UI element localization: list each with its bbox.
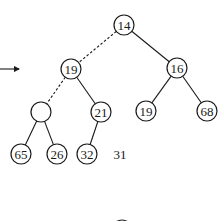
tree-node: 68 bbox=[197, 101, 217, 121]
heap-diagram: 141916211968652632 31 bbox=[0, 0, 222, 221]
tree-edge bbox=[77, 77, 96, 104]
tree-edge bbox=[45, 121, 54, 144]
node-value-label: 32 bbox=[81, 147, 94, 162]
node-value-label: 26 bbox=[51, 147, 65, 162]
tree-node: 26 bbox=[47, 144, 67, 164]
tree-edge bbox=[183, 76, 202, 103]
empty-hole-node bbox=[31, 102, 51, 122]
node-value-label: 19 bbox=[65, 62, 78, 77]
node-circle bbox=[31, 102, 51, 122]
tree-node: 21 bbox=[91, 102, 111, 122]
node-value-label: 65 bbox=[15, 147, 28, 162]
partial-node-circle bbox=[112, 220, 132, 221]
tree-node: 16 bbox=[167, 58, 187, 78]
node-value-label: 16 bbox=[171, 61, 185, 76]
tree-edge bbox=[79, 31, 117, 62]
tree-edges bbox=[25, 31, 201, 145]
tree-node: 32 bbox=[77, 144, 97, 164]
node-value-label: 14 bbox=[118, 18, 132, 33]
node-value-label: 68 bbox=[201, 104, 214, 119]
pending-value-label: 31 bbox=[114, 147, 127, 162]
tree-node: 19 bbox=[136, 101, 156, 121]
tree-node: 14 bbox=[114, 15, 134, 35]
tree-node: 19 bbox=[61, 59, 81, 79]
tree-edge bbox=[90, 121, 98, 144]
tree-node: 65 bbox=[11, 144, 31, 164]
tree-nodes: 141916211968652632 bbox=[11, 15, 217, 164]
node-value-label: 19 bbox=[140, 104, 153, 119]
tree-edge bbox=[25, 121, 36, 145]
tree-edge bbox=[132, 31, 169, 61]
node-value-label: 21 bbox=[95, 105, 108, 120]
tree-edge bbox=[152, 76, 171, 103]
tree-edge bbox=[47, 77, 66, 104]
